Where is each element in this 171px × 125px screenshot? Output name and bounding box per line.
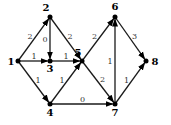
edge-4-5 [50,63,81,104]
node-label: 5 [75,47,82,58]
edge-weight-label: 0 [80,95,85,104]
node-label: 3 [47,63,54,74]
edge-weight-label: 2 [100,75,105,84]
node-label: 6 [112,1,119,12]
edge-weight-label: 2 [92,32,97,41]
edge-6-8 [115,17,145,59]
node-6 [113,15,118,20]
edge-weight-label: 3 [132,32,137,41]
node-label: 8 [152,56,159,67]
edge-weight-label: 1 [124,76,129,85]
edge-weight-label: 1 [35,76,40,85]
node-1 [16,59,21,64]
node-label: 7 [112,107,119,118]
edge-weight-label: 1 [31,52,36,61]
node-label: 2 [43,2,50,13]
edge-weight-label: 2 [27,32,32,41]
edge-5-7 [82,61,113,102]
node-2 [48,15,53,20]
node-8 [144,59,149,64]
edge-weight-label: 0 [42,35,47,44]
edge-weight-label: 1 [59,76,64,85]
edge-weight-label: 1 [63,52,68,61]
edge-1-4 [18,61,49,102]
node-label: 1 [8,56,15,67]
edge-5-6 [82,19,114,61]
node-5 [80,59,85,64]
edge-weight-label: 2 [67,32,72,41]
edge-7-8 [115,63,145,104]
edge-weight-label: 1 [107,57,112,66]
node-7 [113,102,118,107]
graph-canvas: 2110211022131 12345678 [0,0,171,125]
node-4 [48,102,53,107]
node-label: 4 [47,107,54,118]
